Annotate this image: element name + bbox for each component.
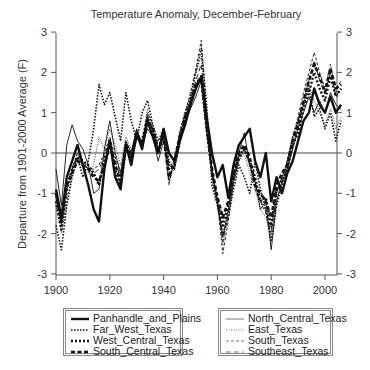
legend-label: Southeast_Texas [248, 346, 329, 357]
series-lines [56, 40, 341, 254]
y-tick-label: 2 [41, 66, 47, 78]
legend-label: South_Central_Texas [93, 346, 193, 357]
x-tick-label: 1920 [98, 284, 122, 296]
legend-swatch-icon [225, 326, 245, 334]
y-tick-label-right: 0 [346, 147, 352, 159]
legend-swatch-icon [225, 315, 245, 323]
x-tick-label: 2000 [313, 284, 337, 296]
legend-swatch-icon [70, 348, 90, 356]
y-tick-label: 1 [41, 107, 47, 119]
legend-swatch-icon [70, 337, 90, 345]
legend-item-south-central-texas: South_Central_Texas [70, 346, 176, 357]
legend-swatch-icon [225, 348, 245, 356]
y-tick-label-right: 1 [346, 107, 352, 119]
x-tick-label: 1960 [205, 284, 229, 296]
chart-title: Temperature Anomaly, December-February [91, 8, 302, 20]
x-tick-label: 1980 [259, 284, 283, 296]
legend-left: Panhandle_and_PlainsFar_West_TexasWest_C… [63, 308, 183, 356]
y-tick-label-right: 3 [346, 26, 352, 38]
x-tick-label: 1940 [151, 284, 175, 296]
legend-swatch-icon [70, 315, 90, 323]
y-tick-label-right: -2 [346, 228, 356, 240]
x-tick-label: 1900 [44, 284, 68, 296]
series-west-central-texas [56, 72, 341, 229]
series-panhandle-and-plains [56, 76, 341, 221]
temperature-anomaly-chart: Temperature Anomaly, December-February D… [0, 0, 370, 300]
y-tick-label: 0 [41, 147, 47, 159]
y-tick-label: -2 [37, 228, 47, 240]
series-north-central-texas [56, 81, 341, 250]
y-tick-label-right: 2 [346, 66, 352, 78]
legend-swatch-icon [225, 337, 245, 345]
y-tick-label: -1 [37, 187, 47, 199]
legend-swatch-icon [70, 326, 90, 334]
y-axis-label: Departure from 1901-2000 Average (F) [16, 59, 28, 249]
y-tick-label: 3 [41, 26, 47, 38]
y-tick-label-right: -3 [346, 268, 356, 280]
legend-item-southeast-texas: Southeast_Texas [225, 346, 326, 357]
y-tick-label-right: -1 [346, 187, 356, 199]
legend-right: North_Central_TexasEast_TexasSouth_Texas… [218, 308, 333, 356]
y-tick-label: -3 [37, 268, 47, 280]
